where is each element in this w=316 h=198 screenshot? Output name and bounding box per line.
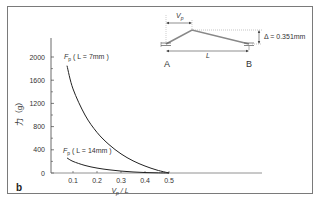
- y-tick-label: 800: [33, 123, 45, 130]
- y-tick-label: 400: [33, 146, 45, 153]
- delta-label: Δ = 0.351mm: [264, 33, 306, 40]
- panel-label: b: [16, 182, 22, 193]
- x-tick-label: 0.2: [92, 177, 102, 184]
- x-axis-label: Vp / L: [111, 187, 128, 196]
- chart-canvas: 0400800120016002000 0.10.20.30.40.5 力（g）…: [0, 0, 316, 198]
- point-a-label: A: [164, 59, 170, 69]
- curve-label-l7mm: Fp ( L = 7mm ): [64, 53, 109, 62]
- curve-l7mm: [67, 66, 169, 173]
- x-tick-label: 0.4: [140, 177, 150, 184]
- y-axis: 0400800120016002000: [29, 38, 54, 177]
- y-axis-label: 力（g）: [14, 98, 24, 126]
- x-tick-label: 0.5: [164, 177, 174, 184]
- y-tick-label: 0: [41, 170, 45, 177]
- length-label: L: [206, 52, 210, 59]
- x-tick-label: 0.1: [68, 177, 78, 184]
- y-tick-label: 1200: [29, 100, 45, 107]
- curve-l14mm: [67, 158, 169, 173]
- y-tick-label: 2000: [29, 54, 45, 61]
- x-tick-label: 0.3: [116, 177, 126, 184]
- y-tick-label: 1600: [29, 77, 45, 84]
- vp-label: Vp: [176, 12, 184, 21]
- curve-label-l14mm: Fp ( L = 14mm ): [63, 147, 112, 156]
- point-b-label: B: [246, 59, 252, 69]
- support-a: [161, 42, 171, 47]
- beam-diagram: Vp Δ = 0.351mm L A B: [161, 12, 306, 69]
